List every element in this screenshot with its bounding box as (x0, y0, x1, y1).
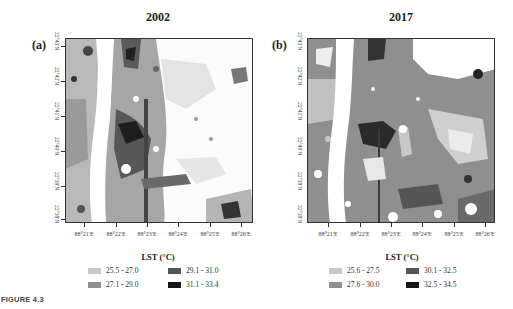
y-tick-label: 22°39'N (297, 172, 303, 190)
xtick (84, 223, 85, 227)
legend-swatch (88, 282, 101, 288)
xtick (454, 223, 455, 227)
legend-label: 27.1 - 29.0 (106, 280, 139, 289)
y-tick-label: 22°38'N (54, 205, 60, 223)
y-tick-label: 22°42'N (297, 67, 303, 85)
legend-label: 32.5 - 34.5 (424, 280, 457, 289)
y-tick-label: 22°42'N (54, 67, 60, 85)
legend-title-b: LST (°C) (352, 252, 452, 262)
y-tick-label: 22°38'N (297, 205, 303, 223)
y-tick-label: 22°41'N (54, 102, 60, 120)
x-tick-label: 88°24'E (412, 231, 431, 237)
x-tick-label: 88°26'E (475, 231, 494, 237)
ytick (61, 81, 65, 82)
ytick (61, 219, 65, 220)
legend-title-a: LST (°C) (108, 252, 208, 262)
legend-label: 25.5 - 27.0 (106, 266, 139, 275)
legend-item: 29.1 - 31.0 (168, 266, 219, 275)
x-tick-label: 88°26'E (231, 231, 250, 237)
ytick (61, 186, 65, 187)
legend-label: 25.6 - 27.5 (347, 266, 380, 275)
lst-map-2017 (307, 38, 495, 223)
legend-item: 27.1 - 29.0 (88, 280, 139, 289)
legend-swatch (168, 268, 181, 274)
xtick (241, 223, 242, 227)
legend-item: 32.5 - 34.5 (406, 280, 457, 289)
y-tick-label: 22°43'N (297, 32, 303, 50)
xtick (147, 223, 148, 227)
panel-b-title: 2017 (306, 10, 496, 25)
legend-swatch (329, 282, 342, 288)
x-tick-label: 88°22'E (106, 231, 125, 237)
legend-swatch (329, 268, 342, 274)
x-tick-label: 88°25'E (444, 231, 463, 237)
xtick (116, 223, 117, 227)
legend-label: 27.6 - 30.0 (347, 280, 380, 289)
panel-b-label: (b) (272, 38, 287, 53)
legend-label: 29.1 - 31.0 (186, 266, 219, 275)
xtick (391, 223, 392, 227)
ytick (61, 46, 65, 47)
legend-label: 30.1 - 32.5 (424, 266, 457, 275)
legend-item: 25.5 - 27.0 (88, 266, 139, 275)
figure-label: FIGURE 4.3 (1, 295, 44, 304)
legend-swatch (406, 268, 419, 274)
legend-label: 31.1 - 33.4 (186, 280, 219, 289)
legend-item: 27.6 - 30.0 (329, 280, 380, 289)
xtick (360, 223, 361, 227)
y-tick-label: 22°43'N (54, 32, 60, 50)
x-tick-label: 88°23'E (137, 231, 156, 237)
y-tick-label: 22°40'N (297, 137, 303, 155)
panel-a-label: (a) (32, 38, 46, 53)
x-tick-label: 88°21'E (74, 231, 93, 237)
ytick (61, 116, 65, 117)
y-tick-label: 22°39'N (54, 172, 60, 190)
legend-swatch (406, 282, 419, 288)
x-tick-label: 88°25'E (200, 231, 219, 237)
xtick (328, 223, 329, 227)
xtick (422, 223, 423, 227)
y-tick-label: 22°40'N (54, 137, 60, 155)
x-tick-label: 88°23'E (381, 231, 400, 237)
legend-item: 31.1 - 33.4 (168, 280, 219, 289)
x-tick-label: 88°24'E (168, 231, 187, 237)
legend-item: 30.1 - 32.5 (406, 266, 457, 275)
panel-a-title: 2002 (63, 10, 253, 25)
xtick (178, 223, 179, 227)
legend-item: 25.6 - 27.5 (329, 266, 380, 275)
x-tick-label: 88°22'E (350, 231, 369, 237)
legend-swatch (88, 268, 101, 274)
y-tick-label: 22°41'N (297, 102, 303, 120)
legend-swatch (168, 282, 181, 288)
x-tick-label: 88°21'E (318, 231, 337, 237)
ytick (61, 151, 65, 152)
xtick (485, 223, 486, 227)
xtick (210, 223, 211, 227)
lst-map-2002 (65, 38, 253, 223)
